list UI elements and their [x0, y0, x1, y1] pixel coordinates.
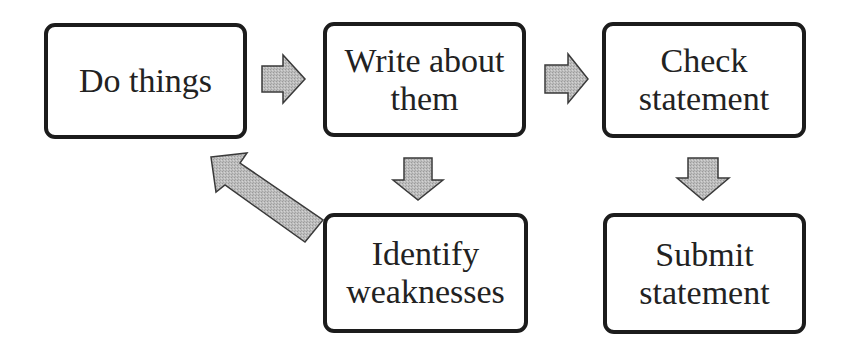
node-label: Write about them — [344, 42, 504, 118]
node-check-statement: Check statement — [602, 22, 806, 138]
node-label: Check statement — [639, 42, 769, 118]
node-identify-weaknesses: Identify weaknesses — [323, 213, 528, 333]
node-submit-statement: Submit statement — [603, 213, 806, 334]
arrow-up-left-icon — [211, 153, 323, 242]
node-label: Identify weaknesses — [346, 235, 505, 311]
node-label: Do things — [79, 62, 212, 100]
node-write-about-them: Write about them — [323, 22, 526, 137]
node-do-things: Do things — [44, 23, 247, 139]
arrow-right-icon — [262, 55, 305, 103]
flowchart-canvas: Do things Write about them Check stateme… — [0, 0, 844, 352]
node-label: Submit statement — [639, 236, 769, 312]
arrow-down-icon — [393, 158, 443, 200]
arrow-down-icon — [677, 158, 729, 200]
arrow-right-icon — [545, 54, 588, 103]
